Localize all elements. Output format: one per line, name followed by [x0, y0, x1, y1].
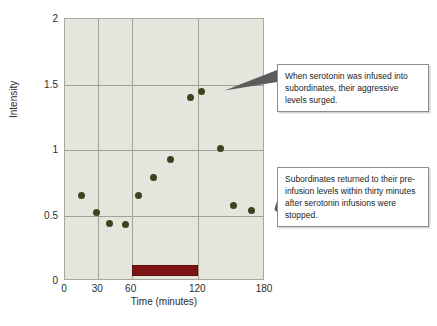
gridline-x-60 — [132, 19, 133, 279]
x-axis-label: Time (minutes) — [64, 296, 264, 307]
x-tick-30: 30 — [92, 283, 103, 294]
plot-area — [64, 18, 264, 280]
data-point — [167, 156, 174, 163]
data-point — [135, 192, 142, 199]
y-tick-1.5: 1.5 — [36, 78, 58, 89]
y-tick-0: 0 — [36, 275, 58, 286]
y-axis-label: Intensity — [8, 81, 19, 118]
gridline-y-1 — [65, 150, 263, 151]
x-tick-0: 0 — [61, 283, 67, 294]
data-point — [187, 94, 194, 101]
gridline-x-120 — [198, 19, 199, 279]
gridline-y-1.5 — [65, 85, 263, 86]
y-tick-2: 2 — [36, 13, 58, 24]
data-point — [217, 145, 224, 152]
gridline-x-30 — [98, 19, 99, 279]
data-point — [248, 207, 255, 214]
data-point — [78, 192, 85, 199]
x-tick-120: 120 — [189, 283, 206, 294]
x-tick-60: 60 — [125, 283, 136, 294]
data-point — [106, 220, 113, 227]
serotonin-infusion-period — [132, 265, 199, 275]
data-point — [198, 88, 205, 95]
y-tick-1: 1 — [36, 144, 58, 155]
scatter-plot-figure: 03060120180 00.511.52 Time (minutes) Int… — [0, 0, 437, 326]
data-point — [230, 202, 237, 209]
data-point — [93, 209, 100, 216]
x-tick-180: 180 — [256, 283, 273, 294]
annotation-callout-2: Subordinates returned to their pre-infus… — [277, 167, 429, 227]
annotation-callout-2-text: Subordinates returned to their pre-infus… — [285, 173, 422, 221]
annotation-callout-1: When serotonin was infused into subordin… — [277, 64, 429, 112]
data-point — [122, 221, 129, 228]
y-tick-0.5: 0.5 — [36, 209, 58, 220]
annotation-callout-1-text: When serotonin was infused into subordin… — [285, 70, 422, 106]
data-point — [150, 174, 157, 181]
